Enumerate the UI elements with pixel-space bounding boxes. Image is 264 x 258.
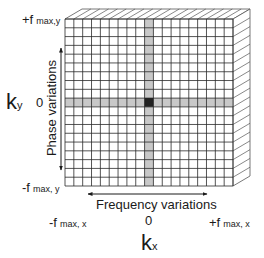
side-face-hatch: [233, 9, 250, 186]
y-top-tick: +fmax,y: [22, 11, 60, 27]
y-zero-tick: 0: [36, 96, 43, 109]
y-axis-label: ky: [6, 91, 23, 113]
frequency-variations-label: Frequency variations: [96, 198, 217, 211]
phase-variations-label: Phase variations: [45, 60, 58, 156]
y-bottom-tick: -fmax, y: [22, 179, 59, 195]
x-right-tick: +fmax, x: [209, 214, 250, 230]
x-zero-tick: 0: [145, 214, 152, 227]
x-left-tick: -fmax, x: [49, 214, 86, 230]
center-cell: [145, 98, 154, 107]
x-axis-label: kx: [141, 232, 158, 254]
top-face-hatch: [65, 9, 250, 19]
